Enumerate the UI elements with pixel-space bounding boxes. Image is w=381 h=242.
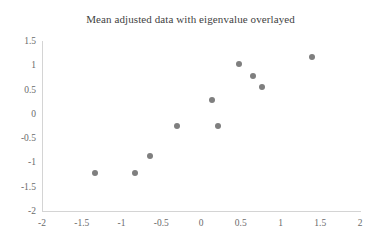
scatter-chart: Mean adjusted data with eigenvalue overl…	[0, 0, 381, 242]
data-point	[250, 73, 256, 79]
y-tick-label: 1	[6, 60, 36, 70]
data-point	[215, 123, 221, 129]
data-point	[236, 61, 242, 67]
y-tick-label: -1	[6, 157, 36, 167]
x-tick-label: -2	[22, 218, 62, 228]
y-tick-label: -0.5	[6, 133, 36, 143]
data-point	[209, 97, 215, 103]
data-point	[174, 123, 180, 129]
data-point	[309, 54, 315, 60]
plot-area	[42, 41, 360, 211]
data-point	[259, 84, 265, 90]
y-tick-label: 0.5	[6, 85, 36, 95]
data-point	[132, 170, 138, 176]
x-tick-label: 2	[340, 218, 380, 228]
x-tick-label: -1	[102, 218, 142, 228]
data-point	[147, 153, 153, 159]
y-tick-label: -2	[6, 206, 36, 216]
x-tick-label: -0.5	[141, 218, 181, 228]
y-tick-label: 1.5	[6, 36, 36, 46]
y-tick-label: -1.5	[6, 182, 36, 192]
data-point	[92, 170, 98, 176]
x-tick-label: 1.5	[300, 218, 340, 228]
y-tick-label: 0	[6, 109, 36, 119]
chart-title: Mean adjusted data with eigenvalue overl…	[0, 13, 381, 25]
x-tick-label: 0.5	[221, 218, 261, 228]
x-tick-label: -1.5	[62, 218, 102, 228]
x-tick-label: 0	[181, 218, 221, 228]
x-axis-line	[42, 211, 361, 212]
x-tick-label: 1	[261, 218, 301, 228]
